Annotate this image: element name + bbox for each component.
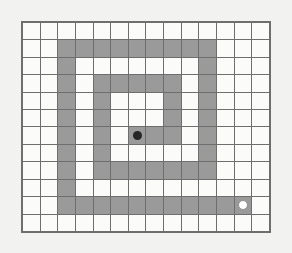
maze-open-cell <box>199 23 216 39</box>
maze-open-cell <box>164 215 181 231</box>
maze-open-cell <box>217 93 234 109</box>
maze-wall-cell <box>182 197 199 213</box>
maze-open-cell <box>129 215 146 231</box>
maze-open-cell <box>76 145 93 161</box>
maze-open-cell <box>111 110 128 126</box>
maze-wall-cell <box>111 197 128 213</box>
maze-open-cell <box>76 75 93 91</box>
maze-wall-cell <box>129 197 146 213</box>
maze-open-cell <box>76 93 93 109</box>
maze-open-cell <box>111 23 128 39</box>
maze-open-cell <box>58 215 75 231</box>
maze-open-cell <box>252 23 269 39</box>
maze-wall-cell <box>199 93 216 109</box>
maze-wall-cell <box>58 197 75 213</box>
maze-wall-cell <box>94 93 111 109</box>
goal-marker <box>238 200 248 210</box>
maze-open-cell <box>146 93 163 109</box>
maze-open-cell <box>182 93 199 109</box>
maze-wall-cell <box>129 162 146 178</box>
maze-open-cell <box>41 127 58 143</box>
maze-open-cell <box>94 180 111 196</box>
maze-open-cell <box>41 93 58 109</box>
maze-open-cell <box>23 145 40 161</box>
maze-open-cell <box>76 127 93 143</box>
maze-wall-cell <box>58 180 75 196</box>
maze-open-cell <box>41 145 58 161</box>
maze-open-cell <box>252 162 269 178</box>
maze-open-cell <box>235 180 252 196</box>
maze-wall-cell <box>76 197 93 213</box>
maze-wall-cell <box>58 110 75 126</box>
maze-open-cell <box>252 58 269 74</box>
maze-wall-cell <box>94 197 111 213</box>
maze-wall-cell <box>94 127 111 143</box>
maze-wall-cell <box>94 162 111 178</box>
maze-open-cell <box>76 58 93 74</box>
maze-open-cell <box>182 215 199 231</box>
maze-wall-cell <box>182 162 199 178</box>
maze-open-cell <box>23 75 40 91</box>
maze-open-cell <box>235 145 252 161</box>
maze-open-cell <box>129 93 146 109</box>
maze-open-cell <box>217 127 234 143</box>
maze-wall-cell <box>164 197 181 213</box>
maze-open-cell <box>164 58 181 74</box>
maze-open-cell <box>129 145 146 161</box>
maze-open-cell <box>41 197 58 213</box>
maze-open-cell <box>111 215 128 231</box>
start-marker <box>133 131 142 140</box>
maze-open-cell <box>252 197 269 213</box>
maze-open-cell <box>199 180 216 196</box>
maze-wall-cell <box>199 40 216 56</box>
maze-open-cell <box>41 58 58 74</box>
maze-open-cell <box>76 110 93 126</box>
maze-wall-cell <box>111 162 128 178</box>
maze-open-cell <box>235 127 252 143</box>
maze-open-cell <box>129 110 146 126</box>
maze-open-cell <box>252 93 269 109</box>
maze-wall-cell <box>146 40 163 56</box>
maze-open-cell <box>146 58 163 74</box>
maze-open-cell <box>23 162 40 178</box>
maze-open-cell <box>252 40 269 56</box>
maze-open-cell <box>94 215 111 231</box>
maze-wall-cell <box>199 145 216 161</box>
maze-open-cell <box>129 58 146 74</box>
maze-open-cell <box>23 215 40 231</box>
maze-wall-cell <box>199 162 216 178</box>
maze-wall-cell <box>164 110 181 126</box>
maze-open-cell <box>23 58 40 74</box>
maze-wall-cell <box>164 93 181 109</box>
maze-open-cell <box>41 75 58 91</box>
maze-open-cell <box>252 145 269 161</box>
maze-wall-cell <box>111 75 128 91</box>
maze-open-cell <box>252 215 269 231</box>
maze-wall-cell <box>58 93 75 109</box>
maze-open-cell <box>217 162 234 178</box>
grid-container <box>21 21 271 233</box>
maze-open-cell <box>23 197 40 213</box>
maze-wall-cell <box>235 197 252 213</box>
maze-wall-cell <box>164 75 181 91</box>
maze-open-cell <box>217 75 234 91</box>
maze-open-cell <box>129 180 146 196</box>
maze-wall-cell <box>94 145 111 161</box>
maze-open-cell <box>217 23 234 39</box>
maze-wall-cell <box>129 127 146 143</box>
maze-open-cell <box>164 180 181 196</box>
maze-grid <box>21 21 271 233</box>
maze-open-cell <box>76 162 93 178</box>
maze-open-cell <box>217 110 234 126</box>
maze-wall-cell <box>199 58 216 74</box>
maze-wall-cell <box>199 197 216 213</box>
maze-wall-cell <box>58 127 75 143</box>
maze-wall-cell <box>58 145 75 161</box>
maze-open-cell <box>41 40 58 56</box>
maze-open-cell <box>41 23 58 39</box>
maze-wall-cell <box>199 75 216 91</box>
maze-open-cell <box>252 75 269 91</box>
maze-open-cell <box>23 180 40 196</box>
maze-wall-cell <box>94 40 111 56</box>
maze-open-cell <box>235 23 252 39</box>
